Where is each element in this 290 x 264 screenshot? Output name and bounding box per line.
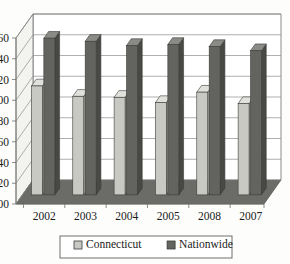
x-axis-tick-label: 2007 bbox=[239, 210, 262, 222]
y-axis-tick-label: 0.80 bbox=[0, 115, 9, 127]
x-axis-tick-label: 2008 bbox=[198, 210, 221, 222]
bar-front-face bbox=[168, 44, 179, 194]
bar-nationwide-2007 bbox=[251, 44, 267, 195]
chart-canvas: 0.000.200.400.600.801.001.201.401.60 200… bbox=[0, 0, 290, 264]
x-axis-tick-label: 2002 bbox=[33, 210, 56, 222]
bar-side-face bbox=[179, 38, 184, 195]
bar-chart: 0.000.200.400.600.801.001.201.401.60 200… bbox=[0, 0, 290, 264]
x-axis: 200220032004200520082007 bbox=[16, 204, 264, 222]
bar-front-face bbox=[251, 51, 262, 195]
bar-nationwide-2002 bbox=[44, 31, 60, 194]
bar-front-face bbox=[73, 96, 84, 195]
bar-side-face bbox=[261, 44, 266, 195]
y-axis-tick-label: 1.40 bbox=[0, 53, 9, 65]
bar-front-face bbox=[155, 103, 166, 195]
legend-label-connecticut: Connecticut bbox=[86, 238, 142, 250]
x-axis-tick-label: 2003 bbox=[74, 210, 97, 222]
legend-label-nationwide: Nationwide bbox=[179, 238, 233, 250]
y-axis-tick-label: 0.00 bbox=[0, 198, 9, 210]
bar-side-face bbox=[220, 40, 225, 195]
bar-front-face bbox=[209, 47, 220, 195]
bar-side-face bbox=[96, 35, 101, 195]
legend-swatch-connecticut bbox=[74, 241, 82, 249]
bar-front-face bbox=[31, 86, 42, 195]
y-axis-tick-label: 0.60 bbox=[0, 136, 9, 148]
y-axis: 0.000.200.400.600.801.001.201.401.60 bbox=[0, 32, 16, 210]
bar-front-face bbox=[238, 104, 249, 195]
bar-front-face bbox=[127, 45, 138, 194]
y-axis-tick-label: 1.60 bbox=[0, 32, 9, 44]
legend: ConnecticutNationwide bbox=[60, 236, 233, 258]
y-axis-tick-label: 1.00 bbox=[0, 94, 9, 106]
y-axis-tick-label: 0.40 bbox=[0, 157, 9, 169]
bar-front-face bbox=[85, 41, 96, 195]
bar-front-face bbox=[44, 38, 55, 195]
legend-swatch-nationwide bbox=[167, 241, 175, 249]
bar-front-face bbox=[114, 97, 125, 195]
y-axis-tick-label: 1.20 bbox=[0, 74, 9, 86]
x-axis-tick-label: 2004 bbox=[115, 210, 138, 222]
bar-nationwide-2005 bbox=[168, 38, 184, 195]
bar-side-face bbox=[137, 39, 142, 195]
bar-nationwide-2004 bbox=[127, 39, 143, 195]
bar-nationwide-2008 bbox=[209, 40, 225, 195]
y-axis-tick-label: 0.20 bbox=[0, 177, 9, 189]
bar-side-face bbox=[55, 31, 60, 194]
bar-front-face bbox=[197, 92, 208, 195]
bar-nationwide-2003 bbox=[85, 35, 101, 195]
x-axis-tick-label: 2005 bbox=[157, 210, 180, 222]
